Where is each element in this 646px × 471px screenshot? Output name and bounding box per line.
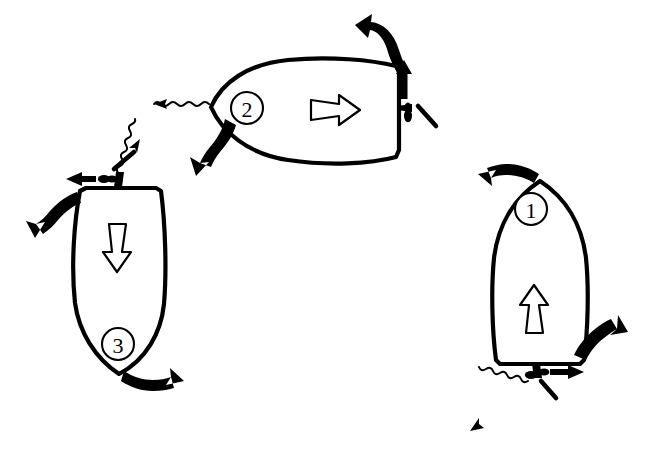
- boat-3-prop-wash-wavy-arrow: [117, 119, 140, 173]
- boat-3-bow-swing-arrow-right: [121, 368, 184, 391]
- boat-1-prop-wash-wavy-arrow: [470, 367, 528, 431]
- boat-1-badge: 1: [515, 193, 547, 225]
- boat-1-badge-label: 1: [526, 198, 537, 223]
- boat-maneuver-diagram: 2: [0, 0, 646, 471]
- boat-1-group: 1: [470, 164, 628, 431]
- boat-2-prop-wash-wavy-arrow: [154, 99, 209, 109]
- boat-3-badge: 3: [102, 328, 134, 360]
- boat-2-badge: 2: [231, 92, 263, 124]
- boat-3-badge-label: 3: [113, 333, 124, 358]
- boat-1-prop-thrust-arrow-right: [550, 365, 584, 379]
- boat-2-group: 2: [154, 14, 436, 176]
- boat-2-badge-label: 2: [242, 97, 253, 122]
- boat-1-bow-swing-arrow-left: [478, 164, 539, 186]
- boat-2-outboard-motor-icon: [397, 103, 436, 126]
- boat-3-group: 3: [26, 119, 184, 391]
- diagram-canvas: 2: [0, 0, 646, 471]
- boat-2-bow-swing-arrow-down-left: [190, 119, 236, 176]
- boat-3-stern-swing-arrow-left: [66, 172, 96, 186]
